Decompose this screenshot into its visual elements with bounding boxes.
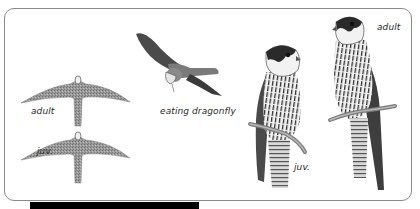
eating-dragonfly-illustration	[136, 33, 222, 96]
label-eating-dragonfly: eating dragonfly	[160, 106, 236, 116]
illustrations	[0, 0, 420, 209]
flight-adult-illustration	[21, 76, 130, 126]
bottom-black-bar	[30, 202, 199, 209]
label-flight-adult: adult	[31, 106, 54, 116]
perched-adult-illustration	[330, 17, 395, 190]
label-flight-juv: juv.	[37, 146, 53, 156]
label-perched-juv: juv.	[294, 162, 310, 172]
label-perched-adult: adult	[377, 22, 400, 32]
flight-juv-illustration	[21, 132, 130, 183]
